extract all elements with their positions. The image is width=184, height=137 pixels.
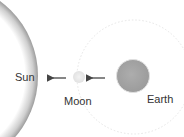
earth-label: Earth — [147, 94, 173, 105]
moon-label: Moon — [64, 96, 92, 107]
diagram-canvas — [0, 0, 184, 137]
moon-icon — [73, 71, 85, 83]
sun-moon-earth-diagram: Sun Moon Earth — [0, 0, 184, 137]
earth-icon — [117, 60, 150, 93]
sun-label: Sun — [15, 72, 35, 83]
sun-icon — [0, 0, 38, 137]
